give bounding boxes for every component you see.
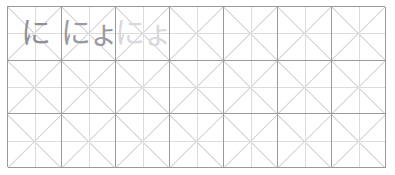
practice-cell[interactable] [62, 114, 116, 168]
practice-cell[interactable] [8, 61, 62, 115]
empty-character-slot [278, 114, 331, 167]
practice-grid: ににょにょ [7, 6, 385, 167]
empty-character-slot [8, 114, 61, 167]
empty-character-slot [278, 7, 331, 60]
written-character: に [8, 7, 61, 60]
empty-character-slot [170, 114, 223, 167]
practice-cell[interactable] [278, 7, 332, 61]
practice-cell[interactable] [332, 114, 386, 168]
empty-character-slot [8, 61, 61, 114]
practice-cell[interactable] [170, 114, 224, 168]
practice-cell[interactable] [224, 61, 278, 115]
practice-cell[interactable] [224, 7, 278, 61]
empty-character-slot [62, 114, 115, 167]
empty-character-slot [224, 7, 277, 60]
written-character: にょ [116, 7, 169, 60]
handwriting-worksheet: ににょにょ [0, 0, 395, 175]
practice-cell[interactable] [332, 7, 386, 61]
practice-cell[interactable]: に [8, 7, 62, 61]
empty-character-slot [170, 7, 223, 60]
empty-character-slot [278, 61, 331, 114]
empty-character-slot [332, 114, 385, 167]
practice-cell[interactable]: にょ [62, 7, 116, 61]
empty-character-slot [116, 61, 169, 114]
practice-cell[interactable] [8, 114, 62, 168]
empty-character-slot [116, 114, 169, 167]
practice-cell[interactable] [170, 61, 224, 115]
empty-character-slot [224, 114, 277, 167]
practice-cell[interactable]: にょ [116, 7, 170, 61]
empty-character-slot [170, 61, 223, 114]
practice-cell[interactable] [170, 7, 224, 61]
practice-cell[interactable] [62, 61, 116, 115]
empty-character-slot [332, 61, 385, 114]
practice-cell[interactable] [278, 114, 332, 168]
written-character: にょ [62, 7, 115, 60]
empty-character-slot [332, 7, 385, 60]
empty-character-slot [62, 61, 115, 114]
practice-cell[interactable] [224, 114, 278, 168]
practice-cell[interactable] [116, 114, 170, 168]
practice-cell[interactable] [116, 61, 170, 115]
practice-cell[interactable] [332, 61, 386, 115]
practice-cell[interactable] [278, 61, 332, 115]
empty-character-slot [224, 61, 277, 114]
